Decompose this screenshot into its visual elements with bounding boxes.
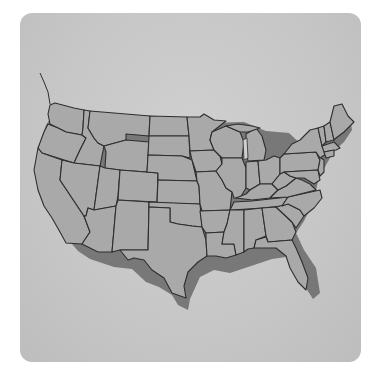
us-states-map: [20, 13, 361, 362]
state-north-dakota: [149, 116, 189, 136]
state-connecticut: [324, 150, 334, 158]
state-kansas: [157, 180, 200, 204]
state-colorado: [118, 170, 158, 202]
canada-border-line: [40, 73, 50, 104]
lake-michigan: [243, 138, 248, 160]
map-card: [20, 13, 361, 362]
state-wyoming: [104, 140, 149, 172]
state-new-mexico: [112, 200, 149, 252]
state-new-jersey: [318, 156, 324, 176]
